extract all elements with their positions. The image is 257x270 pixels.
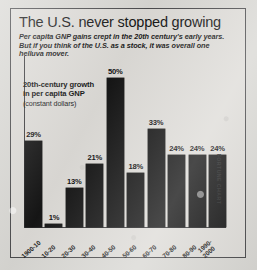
- chart-screenshot: The U.S. never stopped growing Per capit…: [0, 0, 257, 270]
- bar-group: 24%: [168, 56, 185, 227]
- bar-value-label: 18%: [128, 162, 143, 171]
- chart-credit: FORTUNE CHART: [217, 154, 223, 205]
- bar-value-label: 24%: [210, 144, 225, 153]
- x-axis-tick-label: 50-60: [121, 244, 137, 260]
- x-axis-tick-label: 1900-10: [21, 240, 43, 260]
- legend-line-2: in per capita GNP: [23, 89, 127, 98]
- bar-value-label: 13%: [67, 177, 82, 186]
- x-axis-labels: 1900-1010-2020-3030-4040-5050-6060-7070-…: [24, 230, 226, 260]
- bar: [168, 155, 185, 227]
- bar: [45, 224, 62, 227]
- x-axis-tick-label: 20-30: [61, 244, 77, 260]
- bar-value-label: 33%: [149, 118, 164, 127]
- legend-line-1: 20th-century growth: [23, 80, 127, 89]
- x-axis-line: [24, 227, 226, 228]
- bar-value-label: 29%: [26, 130, 41, 139]
- bar: [86, 164, 103, 227]
- bar-group: 18%: [127, 56, 144, 227]
- bar-group: 33%: [148, 56, 165, 227]
- x-axis-tick-label: 1990- 2000: [197, 239, 218, 260]
- bar: [148, 129, 165, 227]
- bar: [127, 173, 144, 227]
- legend-line-3: (constant dollars): [23, 99, 127, 108]
- x-axis-tick-label: 60-70: [141, 244, 157, 260]
- bar: [25, 141, 42, 227]
- bar-value-label: 24%: [190, 144, 205, 153]
- bar-value-label: 50%: [108, 67, 123, 76]
- bar: [66, 188, 83, 227]
- x-axis-tick-label: 80-90: [181, 244, 197, 260]
- bar-group: 24%: [189, 56, 206, 227]
- bar-value-label: 21%: [88, 153, 103, 162]
- chart-subtitle: Per capita GNP gains crept in the 20th c…: [19, 33, 235, 59]
- page-title: The U.S. never stopped growing: [19, 14, 239, 30]
- x-axis-tick-label: 30-40: [81, 244, 97, 260]
- x-axis-tick-label: 70-80: [161, 244, 177, 260]
- bar-value-label: 24%: [169, 144, 184, 153]
- bar-value-label: 1%: [49, 213, 60, 222]
- x-axis-tick-label: 10-20: [41, 244, 57, 260]
- x-axis-tick-label: 40-50: [101, 244, 117, 260]
- chart-legend: 20th-century growth in per capita GNP (c…: [23, 80, 127, 108]
- bar: [189, 155, 206, 227]
